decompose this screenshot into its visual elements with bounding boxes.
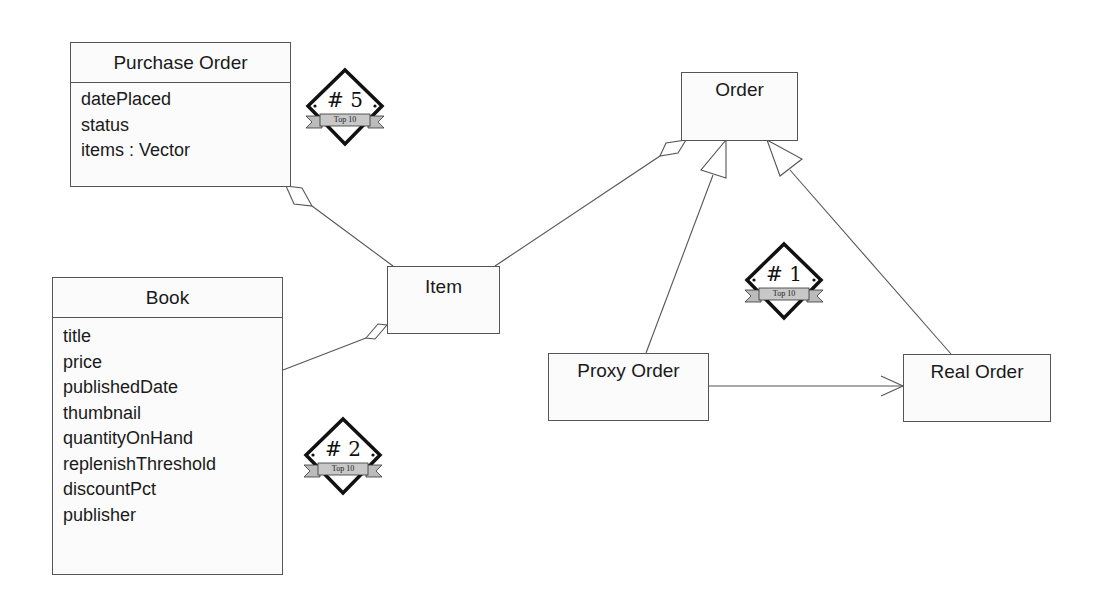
attribute: datePlaced [81,87,290,113]
attribute: title [63,324,282,350]
generalization-triangle-icon [701,140,726,178]
generalization-line-proxy-order [646,175,713,353]
attribute: thumbnail [63,401,282,427]
attribute-list: datePlaced status items : Vector [71,83,290,164]
aggregation-diamond-icon [286,186,312,206]
badge-rank: # 2 [298,437,388,461]
class-name: Order [682,73,797,99]
generalization-triangle-icon [767,140,802,176]
attribute: quantityOnHand [63,426,282,452]
attribute: publishedDate [63,375,282,401]
attribute: items : Vector [81,138,290,164]
attribute-list: title price publishedDate thumbnail quan… [53,318,282,528]
aggregation-line-book-item [283,338,366,370]
attribute: status [81,113,290,139]
attribute: publisher [63,503,282,529]
badge-label: Top 10 [300,115,390,124]
class-book[interactable]: Book title price publishedDate thumbnail… [52,277,283,575]
class-name: Book [53,278,282,318]
badge-label: Top 10 [298,464,388,473]
diagram-canvas: Purchase Order datePlaced status items :… [0,0,1118,600]
class-name: Item [388,267,499,296]
class-real-order[interactable]: Real Order [903,354,1051,422]
class-proxy-order[interactable]: Proxy Order [548,353,709,421]
class-name: Purchase Order [71,43,290,83]
top10-badge-1: # 1 Top 10 [739,236,829,326]
class-name: Proxy Order [549,354,708,380]
badge-rank: # 5 [300,88,390,112]
class-order[interactable]: Order [681,72,798,141]
class-item[interactable]: Item [387,266,500,334]
aggregation-line-po-item [312,206,393,266]
class-purchase-order[interactable]: Purchase Order datePlaced status items :… [70,42,291,187]
top10-badge-5: # 5 Top 10 [300,62,390,152]
badge-rank: # 1 [739,262,829,286]
aggregation-line-item-order [495,156,660,266]
attribute: price [63,350,282,376]
badge-label: Top 10 [739,289,829,298]
class-name: Real Order [904,355,1050,381]
aggregation-diamond-icon [660,140,686,156]
top10-badge-2: # 2 Top 10 [298,411,388,501]
attribute: discountPct [63,477,282,503]
aggregation-diamond-icon [366,324,387,339]
attribute: replenishThreshold [63,452,282,478]
